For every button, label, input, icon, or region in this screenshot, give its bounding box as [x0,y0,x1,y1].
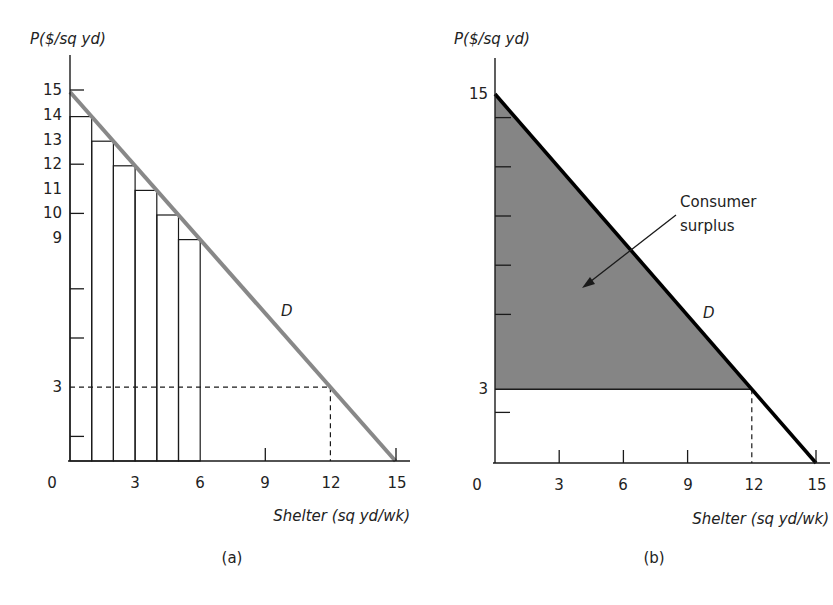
bar-4 [135,190,157,461]
svg-text:6: 6 [618,476,628,494]
svg-text:12: 12 [744,476,763,494]
panel-a: P($/sq yd) [30,30,410,567]
bar-2 [92,141,114,461]
x-tick-labels-a: 0 3 6 9 12 15 [47,474,406,492]
svg-text:14: 14 [43,106,62,124]
svg-text:13: 13 [43,131,62,149]
svg-text:10: 10 [43,204,62,222]
svg-text:3: 3 [554,476,564,494]
svg-text:3: 3 [130,474,140,492]
caption-a: (a) [222,549,243,567]
y-axis-label-a: P($/sq yd) [30,30,106,48]
surplus-label-line1: Consumer [680,193,757,211]
y-ticks-a [70,90,84,436]
svg-text:12: 12 [43,155,62,173]
demand-label-a: D [281,302,293,320]
y-tick-15-b: 15 [469,85,488,103]
svg-text:9: 9 [260,474,270,492]
panel-b: P($/sq yd) 15 3 [454,30,830,567]
svg-text:15: 15 [807,476,826,494]
x-ticks-b [559,450,816,463]
svg-text:6: 6 [195,474,205,492]
figure: P($/sq yd) [0,0,833,605]
bar-6 [179,240,201,461]
surplus-label-line2: surplus [680,217,735,235]
x-tick-labels-b: 0 3 6 9 12 15 [472,476,826,494]
svg-text:12: 12 [321,474,340,492]
caption-b: (b) [643,549,664,567]
svg-text:15: 15 [387,474,406,492]
svg-text:0: 0 [47,474,57,492]
svg-text:15: 15 [43,81,62,99]
x-axis-label-b: Shelter (sq yd/wk) [692,510,829,528]
svg-text:0: 0 [472,476,482,494]
y-tick-3-b: 3 [478,380,488,398]
svg-text:11: 11 [43,180,62,198]
demand-curve-a [70,92,396,461]
bar-3 [113,166,135,461]
bar-5 [157,215,179,461]
y-tick-labels-a: 15 14 13 12 11 10 9 3 [43,81,62,396]
demand-label-b: D [703,304,715,322]
y-axis-label-b: P($/sq yd) [454,30,530,48]
svg-text:9: 9 [683,476,693,494]
x-axis-label-a: Shelter (sq yd/wk) [273,507,410,525]
svg-text:3: 3 [52,378,62,396]
svg-text:9: 9 [52,229,62,247]
